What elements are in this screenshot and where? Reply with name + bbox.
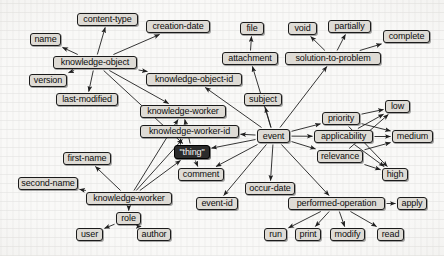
node-subject[interactable]: subject bbox=[244, 93, 282, 106]
node-medium[interactable]: medium bbox=[392, 130, 433, 143]
node-partially[interactable]: partially bbox=[328, 20, 371, 33]
node-solution-to-problem[interactable]: solution-to-problem bbox=[285, 52, 381, 65]
node-version[interactable]: version bbox=[29, 74, 67, 87]
node-knowledge-object-id[interactable]: knowledge-object-id bbox=[146, 73, 242, 86]
node-label: last-modified bbox=[62, 95, 112, 104]
node-label: subject bbox=[249, 95, 277, 104]
node-label: event-id bbox=[201, 199, 232, 208]
node-low[interactable]: low bbox=[385, 100, 410, 113]
edge-attachment-to-file bbox=[251, 37, 252, 51]
node-priority[interactable]: priority bbox=[322, 112, 360, 125]
edge-event-to-knowledge-worker-id bbox=[241, 134, 256, 135]
node-first-name[interactable]: first-name bbox=[63, 152, 111, 165]
edge-event-to-solution-to-problem bbox=[280, 67, 327, 128]
node-label: "thing" bbox=[179, 148, 204, 157]
edge-role-to-user bbox=[105, 224, 115, 228]
node-label: knowledge-worker bbox=[93, 194, 164, 203]
edge-knowledge-object-to-knowledge-object-id bbox=[139, 70, 148, 72]
node-knowledge-object[interactable]: knowledge-object bbox=[53, 56, 137, 69]
edge-priority-to-low bbox=[362, 109, 384, 114]
node-label: user bbox=[81, 230, 98, 239]
node-read[interactable]: read bbox=[377, 228, 404, 241]
node-user[interactable]: user bbox=[76, 228, 103, 241]
node-label: apply bbox=[401, 199, 422, 208]
edge-performed-operation-to-read bbox=[350, 212, 376, 227]
node-label: role bbox=[121, 214, 136, 223]
node-label: attachment bbox=[228, 54, 272, 63]
node-performed-operation[interactable]: performed-operation bbox=[288, 197, 385, 210]
node-label: void bbox=[294, 24, 310, 33]
node-label: event bbox=[263, 132, 285, 141]
node-label: version bbox=[34, 76, 62, 85]
node-label: first-name bbox=[67, 154, 106, 163]
edge-performed-operation-to-modify bbox=[339, 212, 344, 227]
node-high[interactable]: high bbox=[382, 168, 408, 181]
node-occur-date[interactable]: occur-date bbox=[245, 182, 295, 195]
edge-thing-to-comment bbox=[195, 161, 197, 167]
edge-knowledge-object-to-last-modified bbox=[89, 71, 94, 92]
node-modify[interactable]: modify bbox=[330, 228, 365, 241]
node-author[interactable]: author bbox=[137, 228, 171, 241]
node-label: knowledge-worker-id bbox=[149, 127, 230, 136]
node-print[interactable]: print bbox=[295, 228, 321, 241]
edge-knowledge-worker-to-second-name bbox=[80, 189, 86, 190]
node-label: priority bbox=[328, 114, 354, 123]
node-run[interactable]: run bbox=[264, 228, 287, 241]
node-label: partially bbox=[334, 22, 364, 31]
edge-knowledge-worker-to-first-name bbox=[95, 167, 120, 191]
node-attachment[interactable]: attachment bbox=[222, 52, 278, 65]
node-event-id[interactable]: event-id bbox=[196, 197, 238, 210]
edge-solution-to-problem-to-partially bbox=[337, 35, 345, 51]
node-label: name bbox=[34, 35, 56, 44]
edge-event-to-occur-date bbox=[271, 145, 273, 181]
node-knowledge-worker-id[interactable]: knowledge-worker-id bbox=[140, 125, 239, 138]
edge-event-to-thing bbox=[212, 140, 256, 149]
node-label: print bbox=[299, 230, 316, 239]
node-label: high bbox=[387, 170, 404, 179]
node-applicability[interactable]: applicability bbox=[314, 130, 373, 143]
node-second-name[interactable]: second-name bbox=[18, 177, 78, 190]
node-complete[interactable]: complete bbox=[383, 30, 430, 43]
node-label: knowledge-object bbox=[61, 58, 129, 67]
node-knowledge-worker-top[interactable]: knowledge-worker bbox=[140, 105, 226, 118]
node-label: second-name bbox=[21, 179, 74, 188]
node-file[interactable]: file bbox=[240, 22, 264, 35]
node-label: modify bbox=[335, 230, 361, 239]
node-label: medium bbox=[397, 132, 428, 141]
node-thing[interactable]: "thing" bbox=[174, 145, 210, 159]
ontology-diagram: namecontent-typecreation-dateknowledge-o… bbox=[0, 0, 444, 256]
node-relevance[interactable]: relevance bbox=[317, 150, 363, 163]
edge-relevance-to-high bbox=[364, 165, 380, 170]
node-label: low bbox=[391, 102, 404, 111]
node-label: complete bbox=[389, 32, 425, 41]
node-label: applicability bbox=[321, 132, 366, 141]
edge-knowledge-object-to-creation-date bbox=[113, 35, 159, 55]
node-label: performed-operation bbox=[297, 199, 377, 208]
node-void[interactable]: void bbox=[288, 22, 317, 35]
edge-relevance-to-medium bbox=[365, 143, 391, 150]
node-last-modified[interactable]: last-modified bbox=[56, 93, 118, 106]
edge-solution-to-problem-to-complete bbox=[360, 44, 382, 51]
edge-event-to-relevance bbox=[292, 142, 316, 149]
node-knowledge-worker[interactable]: knowledge-worker bbox=[86, 192, 172, 205]
node-label: knowledge-object-id bbox=[155, 75, 233, 84]
edge-solution-to-problem-to-void bbox=[311, 37, 325, 51]
node-role[interactable]: role bbox=[116, 212, 141, 225]
node-comment[interactable]: comment bbox=[178, 168, 224, 181]
node-label: occur-date bbox=[249, 184, 291, 193]
node-name[interactable]: name bbox=[30, 33, 61, 46]
node-label: relevance bbox=[321, 152, 359, 161]
edge-knowledge-object-to-version bbox=[69, 71, 75, 73]
edge-knowledge-object-to-content-type bbox=[97, 28, 105, 55]
node-label: content-type bbox=[83, 15, 131, 24]
node-label: file bbox=[246, 24, 257, 33]
node-label: solution-to-problem bbox=[295, 54, 370, 63]
node-apply[interactable]: apply bbox=[397, 197, 427, 210]
edge-knowledge-object-to-name bbox=[63, 47, 78, 54]
node-label: author bbox=[142, 230, 167, 239]
edge-event-to-subject bbox=[265, 108, 271, 128]
node-creation-date[interactable]: creation-date bbox=[146, 20, 210, 33]
node-label: creation-date bbox=[152, 22, 203, 31]
node-content-type[interactable]: content-type bbox=[77, 13, 138, 26]
node-event[interactable]: event bbox=[257, 129, 290, 143]
